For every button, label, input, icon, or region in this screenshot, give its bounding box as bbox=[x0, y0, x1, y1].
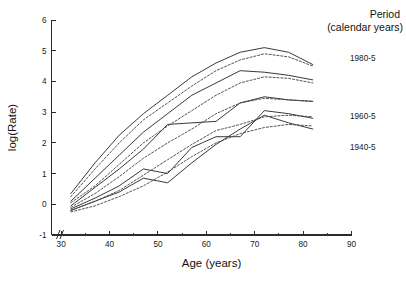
x-tick-label-70: 70 bbox=[250, 240, 260, 249]
series-line-cohort-dashed-3 bbox=[71, 98, 313, 207]
line-chart: -10123456 30405060708090 Period(calendar… bbox=[0, 0, 406, 283]
legend-label-1940-5: 1940-5 bbox=[350, 143, 376, 152]
x-tick-label-30: 30 bbox=[57, 240, 67, 249]
legend-label-1960-5: 1960-5 bbox=[350, 112, 376, 121]
y-axis-title: log(Rate) bbox=[6, 104, 18, 151]
legend-title-line2: (calendar years) bbox=[327, 21, 403, 33]
y-tick-label-0: 0 bbox=[42, 200, 47, 209]
y-tick-label-2: 2 bbox=[42, 139, 47, 148]
series-line-cohort-solid-3 bbox=[71, 97, 313, 206]
x-axis: 30405060708090 bbox=[52, 230, 357, 249]
legend: Period(calendar years)1980-51960-51940-5 bbox=[327, 8, 403, 152]
x-axis-title: Age (years) bbox=[182, 257, 242, 269]
y-tick-label--1: -1 bbox=[39, 231, 47, 240]
x-tick-label-90: 90 bbox=[347, 240, 357, 249]
series-lines bbox=[71, 48, 313, 212]
series-line-cohort-solid-2 bbox=[71, 71, 313, 202]
series-line-cohort-dashed-5 bbox=[71, 124, 313, 212]
series-line-cohort-dashed-1 bbox=[71, 54, 313, 197]
y-axis: -10123456 bbox=[39, 16, 55, 240]
x-tick-label-60: 60 bbox=[202, 240, 212, 249]
series-line-cohort-solid-4 bbox=[71, 111, 313, 209]
x-tick-label-40: 40 bbox=[105, 240, 115, 249]
legend-title-line1: Period bbox=[370, 8, 401, 20]
legend-label-1980-5: 1980-5 bbox=[350, 54, 376, 63]
y-tick-label-5: 5 bbox=[42, 47, 47, 56]
y-tick-label-6: 6 bbox=[42, 16, 47, 25]
series-line-cohort-solid-1 bbox=[71, 48, 313, 194]
y-tick-label-3: 3 bbox=[42, 108, 47, 117]
y-tick-label-4: 4 bbox=[42, 77, 47, 86]
x-tick-label-50: 50 bbox=[153, 240, 163, 249]
x-tick-label-80: 80 bbox=[299, 240, 309, 249]
chart-figure: -10123456 30405060708090 Period(calendar… bbox=[0, 0, 406, 283]
y-tick-label-1: 1 bbox=[42, 170, 47, 179]
